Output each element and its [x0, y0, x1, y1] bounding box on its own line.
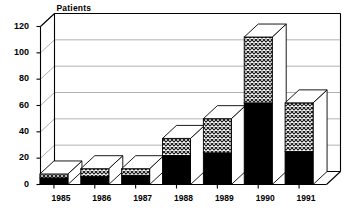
bar-column	[81, 156, 123, 185]
axis-depth-tick	[41, 93, 55, 106]
y-tick-label: 60	[3, 100, 29, 110]
bar-chart: Patients 020406080100120 198519861987198…	[0, 0, 348, 217]
y-tick-label: 0	[3, 179, 29, 189]
axis-depth-tick	[41, 66, 55, 79]
bar-column	[203, 106, 245, 185]
axis-depth-tick	[41, 145, 55, 158]
y-tick-label: 120	[3, 21, 29, 31]
plot-area	[0, 0, 348, 217]
axis-depth-tick	[41, 40, 55, 53]
bar-column	[244, 24, 286, 184]
bar-column	[285, 90, 327, 185]
y-tick-label: 100	[3, 47, 29, 57]
bar-column	[40, 161, 82, 185]
bars-group	[40, 24, 327, 184]
axis-line	[41, 14, 55, 27]
axis-line	[327, 172, 341, 185]
axis-depth-tick	[41, 119, 55, 132]
bar-column	[122, 156, 164, 185]
bar-column	[163, 125, 205, 184]
y-tick-label: 20	[3, 152, 29, 162]
y-tick-label: 40	[3, 126, 29, 136]
y-tick-label: 80	[3, 73, 29, 83]
x-tick-label: 1991	[276, 193, 336, 203]
